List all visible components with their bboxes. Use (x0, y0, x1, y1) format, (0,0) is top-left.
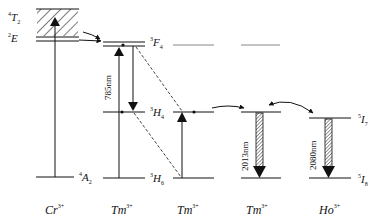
cr-tm-transfer-arrow (83, 32, 100, 39)
tm1-column (103, 42, 145, 178)
arrow-down-icon (253, 166, 266, 178)
ion-label-ho: Ho3+ (318, 203, 341, 217)
level-label-3F4: 3F4 (150, 36, 163, 50)
tm2-column (173, 45, 214, 178)
energy-level-diagram: 4T2 2E 4A2 785nm 3F4 3H4 3H6 (0, 0, 378, 223)
ho-emission-wavelength-label: 2080nm (308, 140, 318, 170)
level-label-4A2: 4A2 (79, 171, 92, 185)
tm-emission-arrow-shaft (256, 113, 263, 168)
arrow-up-icon (114, 47, 124, 56)
level-label-3H4: 3H4 (150, 106, 164, 120)
level-label-3H6: 3H6 (150, 172, 164, 186)
cross-relaxation-dashed (134, 113, 181, 177)
ion-label-tm-1: Tm3+ (111, 203, 133, 217)
tm-tm-transfer-arrow (212, 106, 244, 108)
ion-label-tm-3: Tm3+ (246, 203, 268, 217)
level-label-2E: 2E (8, 32, 18, 44)
cross-relaxation-dashed (136, 47, 182, 111)
ho-emission-arrow-shaft (325, 119, 332, 168)
level-label-5I8: 5I8 (358, 173, 368, 187)
cr-tm-transfer-line (79, 40, 101, 41)
arrow-down-icon (128, 102, 138, 111)
tm-ho-transfer-arrow (269, 102, 313, 113)
population-dot (120, 110, 123, 113)
arrow-up-icon (177, 112, 187, 122)
ion-label-tm-2: Tm3+ (177, 203, 199, 217)
ion-label-cr: Cr3+ (45, 203, 65, 217)
level-label-5I7: 5I7 (358, 113, 368, 127)
population-dot (192, 110, 195, 113)
cr-column (36, 9, 79, 177)
tm-emission-wavelength-label: 2013nm (240, 141, 250, 171)
population-dot (121, 43, 124, 46)
arrow-down-icon (322, 166, 335, 178)
level-label-4T2: 4T2 (8, 11, 20, 25)
pump-wavelength-label: 785nm (103, 75, 113, 100)
